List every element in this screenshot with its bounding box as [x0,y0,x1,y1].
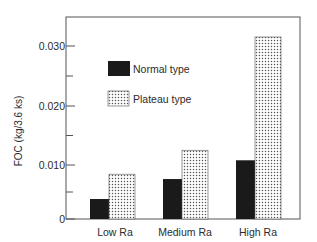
bar-normal-type [236,160,255,219]
chart-canvas: 00.0100.0200.030 Low RaMedium RaHigh Ra … [0,0,317,242]
bar-normal-type [163,179,182,219]
legend: Normal type Plateau type [108,61,192,106]
y-tick-label: 0.010 [39,159,65,171]
y-tick-label: 0.030 [39,40,65,52]
x-category-label: Medium Ra [158,226,212,238]
x-category-label: High Ra [239,226,277,238]
bar-plateau-type [182,150,208,219]
x-category-label: Low Ra [97,226,133,238]
legend-label-plateau: Plateau type [133,93,192,105]
bar-chart: 00.0100.0200.030 Low RaMedium RaHigh Ra … [0,0,317,242]
bar-normal-type [90,199,109,219]
y-tick-label: 0 [59,213,65,225]
legend-label-normal: Normal type [133,63,190,75]
y-axis-title: FOC (kg/3.6 ks) [13,96,24,167]
bar-plateau-type [109,174,135,219]
x-axis-labels: Low RaMedium RaHigh Ra [97,226,277,238]
legend-swatch-plateau [108,91,129,106]
legend-swatch-normal [108,61,130,76]
bar-plateau-type [255,37,281,219]
y-axis: 00.0100.0200.030 [39,40,75,225]
y-tick-label: 0.020 [39,100,65,112]
